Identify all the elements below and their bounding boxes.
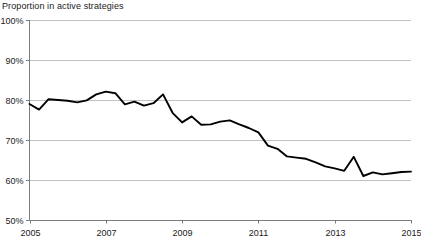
- x-tick-label: 2005: [20, 228, 40, 238]
- series-line: [30, 92, 412, 176]
- y-tick-label: 70%: [5, 136, 23, 146]
- y-axis-ticks: 100%90%80%70%60%50%: [0, 16, 29, 226]
- y-tick-label: 80%: [5, 96, 23, 106]
- y-tick-label: 60%: [5, 176, 23, 186]
- data-series: [30, 92, 412, 176]
- x-tick-label: 2007: [96, 228, 116, 238]
- x-tick-label: 2011: [249, 228, 268, 238]
- y-tick-label: 90%: [5, 56, 23, 66]
- x-tick-label: 2015: [401, 228, 421, 238]
- chart-page: Proportion in active strategies 100%90%8…: [0, 0, 421, 247]
- x-tick-label: 2013: [325, 228, 345, 238]
- y-tick-label: 50%: [5, 216, 23, 226]
- line-chart-plot: 100%90%80%70%60%50% 20052007200920112013…: [0, 0, 421, 247]
- y-tick-label: 100%: [0, 16, 23, 26]
- x-tick-label: 2009: [172, 228, 192, 238]
- x-axis-ticks: 200520072009201120132015: [20, 220, 421, 238]
